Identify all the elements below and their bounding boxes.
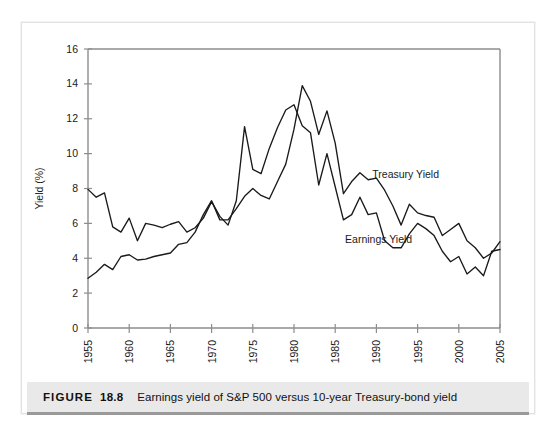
data-series-group (88, 86, 500, 279)
y-axis-tick-label: 10 (66, 147, 78, 159)
x-axis-tick-label: 1980 (288, 340, 300, 364)
series-label-treasury-yield: Treasury Yield (372, 168, 439, 180)
series-line-treasury-yield (88, 86, 500, 279)
x-axis-tick-label: 2000 (453, 340, 465, 364)
caption-description: Earnings yield of S&P 500 versus 10-year… (137, 391, 457, 403)
yield-line-chart: 0246810121416 19551960196519701975198019… (21, 22, 535, 372)
y-axis-tick-label: 6 (72, 217, 78, 229)
figure-container: 0246810121416 19551960196519701975198019… (0, 0, 560, 441)
y-axis-tick-label: 14 (66, 77, 78, 89)
series-annotations: Earnings YieldTreasury Yield (345, 168, 439, 245)
y-axis-tick-label: 2 (72, 287, 78, 299)
figure-caption-bar: FIGURE 18.8 Earnings yield of S&P 500 ve… (27, 382, 529, 412)
caption-figure-number: 18.8 (100, 391, 123, 403)
y-axis-tick-label: 8 (72, 182, 78, 194)
x-axis-tick-label: 2005 (494, 340, 506, 364)
y-axis-tick-label: 16 (66, 43, 78, 55)
series-label-earnings-yield: Earnings Yield (345, 233, 412, 245)
figure-caption-inner: FIGURE 18.8 Earnings yield of S&P 500 ve… (43, 382, 457, 412)
x-axis-tick-label: 1970 (206, 340, 218, 364)
x-axis-tick-label: 1990 (370, 340, 382, 364)
y-axis-tick-label: 4 (72, 252, 78, 264)
x-axis-tick-label: 1955 (82, 340, 94, 364)
x-axis-tick-label: 1985 (329, 340, 341, 364)
x-axis-tick-label: 1975 (247, 340, 259, 364)
y-axis-tick-label: 12 (66, 112, 78, 124)
y-axis-title: Yield (%) (33, 167, 45, 209)
y-axis-tick-label: 0 (72, 322, 78, 334)
x-axis-tick-label: 1965 (164, 340, 176, 364)
x-axis: 1955196019651970197519801985199019952000… (82, 324, 506, 363)
y-axis: 0246810121416 (66, 43, 500, 334)
chart-plot-area: 0246810121416 19551960196519701975198019… (21, 22, 535, 372)
x-axis-tick-label: 1995 (412, 340, 424, 364)
caption-underline-rule (27, 412, 529, 415)
x-axis-tick-label: 1960 (123, 340, 135, 364)
caption-figure-word: FIGURE (43, 391, 93, 403)
